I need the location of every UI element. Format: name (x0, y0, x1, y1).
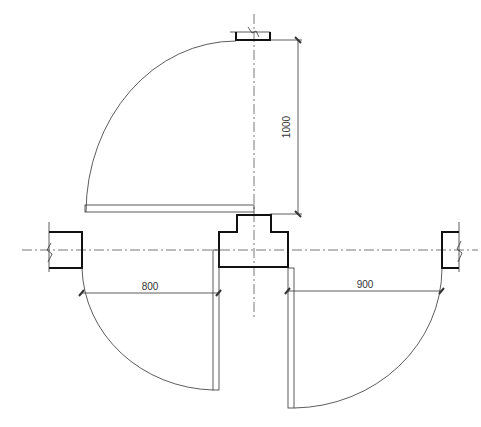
top-door-swing-arc (86, 41, 236, 212)
centerlines (22, 14, 478, 318)
dimension-label-800: 800 (142, 281, 159, 292)
door-swing-drawing: 1000 800 900 (0, 0, 481, 427)
right-wall (442, 222, 462, 272)
top-door (85, 41, 254, 212)
top-door-leaf (85, 205, 254, 212)
left-wall (47, 222, 82, 272)
top-wall-stub (230, 27, 270, 40)
left-door-leaf (213, 250, 219, 390)
central-column (219, 215, 288, 267)
dimension-label-900: 900 (357, 279, 374, 290)
left-door (82, 250, 219, 390)
dimension-label-1000: 1000 (281, 115, 292, 138)
